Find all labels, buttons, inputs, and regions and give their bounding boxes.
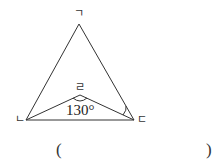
angle-value-label: 130° [66,103,95,118]
angle-arc-right [123,106,126,115]
vertex-label-apex: ㄱ [74,8,84,19]
triangle-diagram [0,0,222,168]
vertex-label-bottom-right: ㄷ [137,114,147,125]
vertex-label-bottom-left: ㄴ [15,114,25,125]
vertex-label-inner: ㄹ [75,82,85,93]
answer-paren-open: ( [56,141,62,158]
answer-paren-close: ) [206,141,212,158]
angle-arc-inner [73,98,87,101]
